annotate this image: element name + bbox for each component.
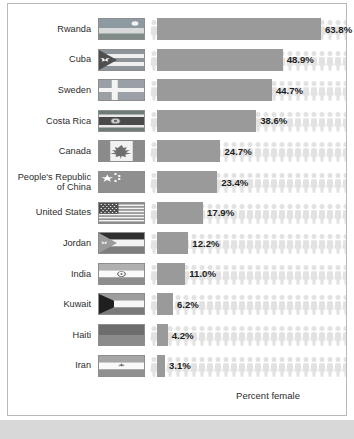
- person-icon: [278, 356, 286, 377]
- flag-china-icon: [98, 171, 145, 193]
- person-icon: [294, 111, 302, 132]
- person-icon: [254, 233, 262, 254]
- person-icon: [286, 294, 294, 315]
- person-icon: [198, 294, 206, 315]
- person-icon: [254, 141, 262, 162]
- person-icon: [262, 172, 270, 193]
- person-icon: [222, 294, 230, 315]
- flag-rwanda-icon: [98, 18, 145, 40]
- country-label: Cuba: [8, 46, 91, 74]
- person-icon: [302, 80, 310, 101]
- person-icon: [222, 356, 230, 377]
- chart-row: Kuwait6.2%: [8, 290, 346, 318]
- value-bar: [157, 140, 220, 162]
- person-icon: [294, 233, 302, 254]
- person-icon: [238, 264, 246, 285]
- chart-row: Cuba48.9%: [8, 46, 346, 74]
- person-icon: [222, 264, 230, 285]
- person-icon: [254, 294, 262, 315]
- person-icon: [334, 233, 342, 254]
- person-icon: [286, 356, 294, 377]
- country-label: Canada: [8, 137, 91, 165]
- person-icon: [302, 325, 310, 346]
- value-label: 12.2%: [188, 229, 219, 257]
- bar-track: 6.2%: [150, 290, 346, 318]
- chart-row: Canada24.7%: [8, 137, 346, 165]
- person-icon: [294, 203, 302, 224]
- person-icon: [214, 294, 222, 315]
- person-icon: [270, 264, 278, 285]
- person-icon: [246, 356, 254, 377]
- person-icon: [302, 294, 310, 315]
- person-icon: [342, 141, 346, 162]
- person-icon: [198, 325, 206, 346]
- person-icon: [310, 325, 318, 346]
- bar-track: 4.2%: [150, 321, 346, 349]
- person-icon: [270, 233, 278, 254]
- chart-row: United States17.9%: [8, 199, 346, 227]
- person-icon: [270, 356, 278, 377]
- person-icon: [230, 325, 238, 346]
- person-icon: [334, 325, 342, 346]
- value-label: 3.1%: [165, 352, 191, 380]
- chart-row: Haiti4.2%: [8, 321, 346, 349]
- flag-costa-rica-icon: [98, 110, 145, 132]
- value-bar: [157, 263, 185, 285]
- person-icon: [246, 203, 254, 224]
- country-label: Jordan: [8, 229, 91, 257]
- person-icon: [318, 294, 326, 315]
- flag-sweden-icon: [98, 79, 145, 101]
- person-icon: [254, 325, 262, 346]
- person-icon: [294, 325, 302, 346]
- value-label: 44.7%: [272, 76, 303, 104]
- person-icon: [254, 356, 262, 377]
- person-icon: [342, 111, 346, 132]
- country-label: Haiti: [8, 321, 91, 349]
- chart-row: Costa Rica38.6%: [8, 107, 346, 135]
- person-icon: [302, 141, 310, 162]
- person-icon: [342, 264, 346, 285]
- person-icon: [326, 50, 334, 71]
- person-icon: [310, 141, 318, 162]
- person-icon: [302, 356, 310, 377]
- flag-united-states-icon: [98, 202, 145, 224]
- person-icon: [334, 264, 342, 285]
- person-icon: [230, 294, 238, 315]
- person-icon: [262, 141, 270, 162]
- chart-row: Iran3.1%: [8, 352, 346, 380]
- person-icon: [334, 50, 342, 71]
- value-bar: [157, 171, 217, 193]
- value-bar: [157, 110, 256, 132]
- person-icon: [190, 356, 198, 377]
- value-label: 17.9%: [203, 199, 234, 227]
- person-icon: [278, 325, 286, 346]
- value-label: 6.2%: [173, 290, 199, 318]
- person-icon: [246, 325, 254, 346]
- person-icon: [286, 325, 294, 346]
- person-icon: [310, 80, 318, 101]
- person-icon: [230, 264, 238, 285]
- flag-cuba-icon: [98, 49, 145, 71]
- person-icon: [270, 203, 278, 224]
- person-icon: [318, 203, 326, 224]
- bar-track: 48.9%: [150, 46, 346, 74]
- person-icon: [342, 80, 346, 101]
- person-icon: [318, 141, 326, 162]
- person-icon: [294, 172, 302, 193]
- person-icon: [318, 111, 326, 132]
- value-bar: [157, 355, 165, 377]
- person-icon: [342, 356, 346, 377]
- bar-track: 24.7%: [150, 137, 346, 165]
- country-label: Costa Rica: [8, 107, 91, 135]
- value-bar: [157, 324, 168, 346]
- bar-track: 3.1%: [150, 352, 346, 380]
- person-icon: [342, 50, 346, 71]
- person-icon: [302, 203, 310, 224]
- person-icon: [310, 203, 318, 224]
- person-icon: [334, 294, 342, 315]
- person-icon: [294, 294, 302, 315]
- person-icon: [334, 141, 342, 162]
- country-label: Sweden: [8, 76, 91, 104]
- person-icon: [262, 325, 270, 346]
- person-icon: [246, 264, 254, 285]
